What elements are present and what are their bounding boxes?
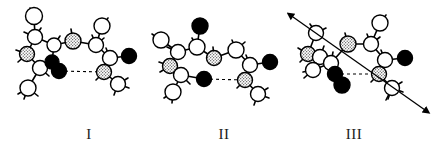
panel-label-i: I xyxy=(59,126,119,143)
open-circle-atom xyxy=(372,15,388,31)
filled-circle-atom xyxy=(197,72,212,87)
open-circle-atom xyxy=(243,58,258,73)
open-circle-atom xyxy=(165,84,181,100)
open-circle-atom xyxy=(111,77,126,92)
stippled-circle-atom xyxy=(97,65,112,80)
open-circle-atom xyxy=(28,30,43,45)
stippled-circle-atom xyxy=(238,73,253,88)
open-circle-atom xyxy=(189,39,205,55)
stippled-circle-atom xyxy=(20,47,35,62)
open-circle-atom xyxy=(26,8,43,25)
open-circle-atom xyxy=(306,63,321,78)
panel-label-ii: II xyxy=(194,126,254,143)
open-circle-atom xyxy=(153,32,169,48)
stippled-circle-atom xyxy=(65,33,81,49)
stippled-circle-atom xyxy=(340,36,356,52)
panel-1 xyxy=(16,8,137,100)
filled-circle-atom xyxy=(263,55,278,70)
panel-2 xyxy=(152,18,278,105)
open-circle-atom xyxy=(20,80,36,96)
filled-circle-atom xyxy=(192,18,208,34)
open-circle-atom xyxy=(103,51,118,66)
open-circle-atom xyxy=(171,45,186,60)
panel-label-iii: III xyxy=(324,126,384,143)
filled-circle-atom xyxy=(52,64,67,79)
open-circle-atom xyxy=(378,53,393,68)
open-circle-atom xyxy=(89,38,104,53)
open-circle-atom xyxy=(94,18,110,34)
stippled-circle-atom xyxy=(207,51,222,66)
open-circle-atom xyxy=(228,42,244,58)
panels-layer xyxy=(16,8,425,111)
open-circle-atom xyxy=(174,68,189,83)
open-circle-atom xyxy=(364,37,379,52)
open-circle-atom xyxy=(251,87,266,102)
atoms-group xyxy=(20,8,137,97)
figure-root: I II III xyxy=(0,0,439,157)
filled-circle-atom xyxy=(122,49,137,64)
filled-circle-atom xyxy=(334,77,350,93)
atoms-group xyxy=(301,15,413,96)
atoms-group xyxy=(153,18,278,102)
filled-circle-atom xyxy=(398,51,413,66)
open-circle-atom xyxy=(47,38,61,52)
panel-3 xyxy=(293,15,425,110)
